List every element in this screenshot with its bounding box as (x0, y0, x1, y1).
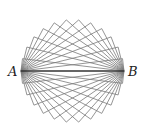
label-b: B (127, 64, 138, 79)
label-a: A (7, 64, 17, 79)
rectangles-on-diameter-diagram: A B (0, 0, 145, 133)
